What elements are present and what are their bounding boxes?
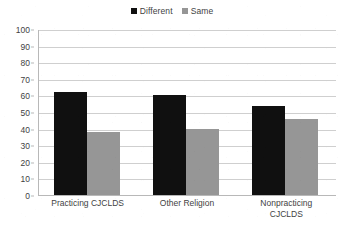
y-axis-tick-mark — [31, 96, 34, 97]
bars-layer — [39, 30, 336, 195]
plot-area — [38, 30, 336, 196]
bar-different-1 — [153, 95, 186, 195]
y-axis-tick-mark — [31, 30, 34, 31]
legend-swatch-same-icon — [182, 8, 188, 14]
bar-same-1 — [186, 129, 219, 195]
y-axis-tick-label: 50 — [21, 109, 30, 118]
y-axis-tick-label: 0 — [25, 192, 30, 201]
legend-label-different: Different — [140, 7, 173, 16]
y-axis-tick-mark — [31, 179, 34, 180]
y-axis-tick-label: 100 — [16, 26, 30, 35]
gridline — [39, 196, 336, 197]
legend-label-same: Same — [191, 7, 214, 16]
legend-swatch-different-icon — [131, 8, 137, 14]
y-axis: 1009080706050403020100 — [0, 30, 34, 196]
x-axis: Practicing CJCLDSOther ReligionNonpracti… — [38, 198, 336, 232]
y-axis-tick-mark — [31, 79, 34, 80]
bar-different-0 — [54, 92, 87, 195]
y-axis-tick-label: 40 — [21, 125, 30, 134]
x-axis-label-0: Practicing CJCLDS — [38, 198, 137, 209]
bar-chart: Different Same 1009080706050403020100 Pr… — [0, 0, 344, 232]
bar-same-0 — [87, 132, 120, 195]
x-axis-label-2: NonpracticingCJCLDS — [237, 198, 336, 220]
y-axis-tick-mark — [31, 162, 34, 163]
y-axis-tick-mark — [31, 113, 34, 114]
y-axis-tick-label: 90 — [21, 42, 30, 51]
x-axis-label-1: Other Religion — [137, 198, 236, 209]
bar-group — [54, 30, 120, 195]
y-axis-tick-mark — [31, 46, 34, 47]
bar-different-2 — [252, 106, 285, 195]
y-axis-tick-label: 10 — [21, 175, 30, 184]
chart-legend: Different Same — [0, 4, 344, 18]
y-axis-tick-label: 80 — [21, 59, 30, 68]
y-axis-tick-label: 60 — [21, 92, 30, 101]
bar-group — [252, 30, 318, 195]
legend-item-same: Same — [182, 7, 214, 16]
bar-group — [153, 30, 219, 195]
y-axis-tick-label: 20 — [21, 158, 30, 167]
bar-same-2 — [285, 119, 318, 195]
y-axis-tick-mark — [31, 196, 34, 197]
y-axis-tick-label: 30 — [21, 142, 30, 151]
y-axis-tick-mark — [31, 63, 34, 64]
y-axis-tick-label: 70 — [21, 75, 30, 84]
y-axis-tick-mark — [31, 146, 34, 147]
y-axis-tick-mark — [31, 129, 34, 130]
legend-item-different: Different — [131, 7, 173, 16]
